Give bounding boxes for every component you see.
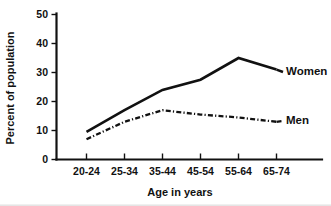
y-tick-label-50: 50 <box>36 8 48 20</box>
y-axis-title: Percent of population <box>4 31 16 144</box>
x-axis-ticks <box>87 154 277 160</box>
series-leader-women <box>277 70 284 72</box>
y-tick-label-30: 30 <box>36 66 48 78</box>
x-axis-tick-labels: 20-24 25-34 35-44 45-54 55-64 65-74 <box>73 165 290 177</box>
x-tick-label-35-44: 35-44 <box>149 165 176 177</box>
x-tick-label-55-64: 55-64 <box>225 165 252 177</box>
scan-artifact-strip <box>0 204 331 206</box>
x-tick-label-65-74: 65-74 <box>263 165 290 177</box>
series-leader-men <box>277 121 284 122</box>
series-label-men: Men <box>286 114 309 126</box>
x-tick-label-45-54: 45-54 <box>187 165 214 177</box>
series-label-women: Women <box>286 65 327 77</box>
y-tick-label-10: 10 <box>36 124 48 136</box>
x-axis-title: Age in years <box>147 186 212 198</box>
y-tick-label-40: 40 <box>36 37 48 49</box>
x-tick-label-20-24: 20-24 <box>73 165 100 177</box>
line-chart-figure: 0 10 20 30 40 50 20-24 25-34 35-44 45-54… <box>0 0 331 206</box>
chart-canvas: 0 10 20 30 40 50 20-24 25-34 35-44 45-54… <box>0 0 331 206</box>
y-axis-tick-labels: 0 10 20 30 40 50 <box>36 8 48 165</box>
y-tick-label-20: 20 <box>36 95 48 107</box>
y-tick-label-0: 0 <box>42 153 48 165</box>
x-tick-label-25-34: 25-34 <box>111 165 138 177</box>
series-line-women <box>87 58 277 132</box>
